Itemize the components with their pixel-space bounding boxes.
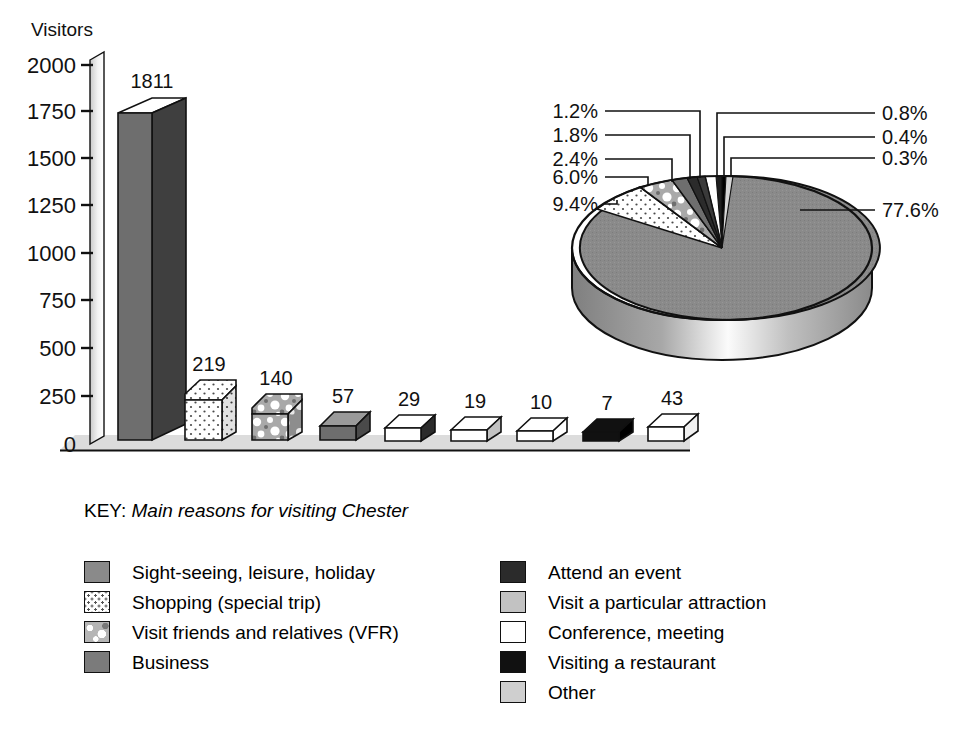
legend-item-label: Other [548, 683, 596, 702]
legend-column-left: Sight-seeing, leisure, holiday Shopping … [84, 558, 399, 678]
y-tick-label: 750 [39, 288, 76, 313]
figure-root: Visitors 2000 1750 1500 1250 1000 750 50… [0, 0, 971, 733]
y-tick-label: 1250 [27, 193, 76, 218]
pie-label-left: 9.4% [552, 193, 598, 215]
bar-value-label: 29 [398, 388, 420, 410]
y-tick-label: 1750 [27, 99, 76, 124]
pie-label-left: 6.0% [552, 166, 598, 188]
legend-swatch-icon [500, 561, 526, 583]
bar-visiting-restaurant [583, 419, 633, 441]
legend-item-label: Visiting a restaurant [548, 653, 716, 672]
pie-label-right: 0.3% [882, 147, 928, 169]
pie-label-right: 0.4% [882, 126, 928, 148]
bar-value-label: 19 [464, 390, 486, 412]
pie-label-left: 1.8% [552, 124, 598, 146]
bar-value-label: 7 [601, 392, 612, 414]
legend-swatch-icon [84, 651, 110, 673]
legend-item-vfr[interactable]: Visit friends and relatives (VFR) [84, 618, 399, 646]
bar-attend-event [385, 415, 435, 441]
pie-label-right: 0.8% [882, 102, 928, 124]
bar-conference [517, 418, 567, 441]
bar-value-label: 219 [192, 353, 225, 375]
bar-other [648, 414, 698, 441]
legend-swatch-icon [84, 621, 110, 643]
y-tick-label: 1000 [27, 241, 76, 266]
y-tick-label: 1500 [27, 146, 76, 171]
y-tick-label: 250 [39, 384, 76, 409]
legend-column-right: Attend an event Visit a particular attra… [500, 558, 766, 708]
legend-swatch-icon [500, 591, 526, 613]
bar-business [320, 412, 370, 440]
bar-value-label: 140 [259, 367, 292, 389]
legend-title-prefix: KEY: [84, 500, 126, 521]
bar-value-label: 1811 [130, 70, 173, 92]
bar-value-label: 43 [661, 387, 683, 409]
legend-item-label: Visit a particular attraction [548, 593, 766, 612]
legend-item-business[interactable]: Business [84, 648, 399, 676]
y-axis-title: Visitors [31, 19, 93, 40]
legend-title-subtitle: Main reasons for visiting Chester [132, 500, 409, 521]
bar-sight-seeing [118, 98, 186, 440]
y-axis [81, 52, 104, 444]
y-tick-label: 2000 [27, 53, 76, 78]
legend-swatch-icon [84, 591, 110, 613]
legend-item-sight-seeing[interactable]: Sight-seeing, leisure, holiday [84, 558, 399, 586]
legend-item-conference[interactable]: Conference, meeting [500, 618, 766, 646]
legend-item-label: Sight-seeing, leisure, holiday [132, 563, 375, 582]
legend-item-label: Attend an event [548, 563, 681, 582]
y-tick-label: 0 [64, 432, 76, 457]
legend-item-attend-event[interactable]: Attend an event [500, 558, 766, 586]
bar-value-label: 10 [530, 391, 552, 413]
bar-value-label: 57 [332, 385, 354, 407]
bar-vfr [252, 394, 302, 440]
pie-chart: 1.2% 1.8% 2.4% 6.0% 9.4% 0.8% 0.4% 0.3% … [552, 100, 939, 360]
legend-item-other[interactable]: Other [500, 678, 766, 706]
legend-item-label: Shopping (special trip) [132, 593, 321, 612]
bar-shopping [185, 380, 236, 440]
legend-item-visiting-restaurant[interactable]: Visiting a restaurant [500, 648, 766, 676]
legend-swatch-icon [500, 621, 526, 643]
bar-visit-attraction [451, 417, 501, 441]
legend-swatch-icon [500, 651, 526, 673]
y-tick-label: 500 [39, 336, 76, 361]
legend-item-visit-attraction[interactable]: Visit a particular attraction [500, 588, 766, 616]
pie-label-left: 1.2% [552, 100, 598, 122]
legend-swatch-icon [500, 681, 526, 703]
legend-title: KEY: Main reasons for visiting Chester [84, 500, 408, 522]
pie-label-right: 77.6% [882, 199, 939, 221]
legend-item-label: Business [132, 653, 209, 672]
legend-item-label: Visit friends and relatives (VFR) [132, 623, 399, 642]
legend-item-label: Conference, meeting [548, 623, 724, 642]
legend-swatch-icon [84, 561, 110, 583]
legend-item-shopping[interactable]: Shopping (special trip) [84, 588, 399, 616]
